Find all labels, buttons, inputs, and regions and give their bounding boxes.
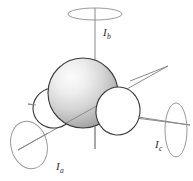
- rotation-ellipse-c: [165, 103, 187, 157]
- axis-label-ia: Ia: [56, 161, 63, 172]
- inertia-axes-figure: Ib Ia Ic: [0, 0, 193, 181]
- axis-label-ib-subscript: b: [107, 32, 111, 41]
- axis-label-ic-subscript: c: [159, 144, 162, 153]
- axis-label-ic: Ic: [155, 139, 162, 150]
- axis-line-a-tail: [18, 133, 48, 150]
- figure-canvas: [0, 0, 193, 181]
- axis-label-ib: Ib: [103, 27, 110, 38]
- axis-line-a-front: [130, 66, 168, 81]
- axis-line-c-front: [138, 117, 190, 125]
- axis-label-ia-subscript: a: [60, 166, 64, 175]
